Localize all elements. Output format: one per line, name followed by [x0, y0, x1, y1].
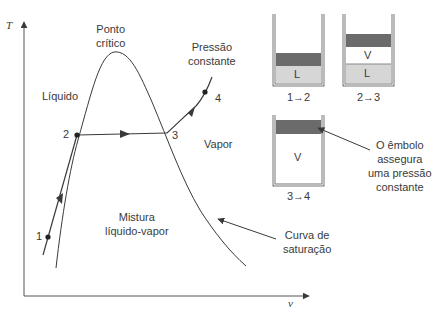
piston [276, 120, 321, 134]
point-3-label: 3 [172, 128, 178, 142]
axes [24, 22, 309, 296]
arrow-2-3-icon [120, 130, 130, 138]
process-3-4 [167, 77, 212, 133]
piston-pointer [318, 128, 370, 150]
constant-pressure-label: Pressão constante [188, 40, 236, 68]
y-axis-label: T [6, 18, 12, 32]
cylinder-1-2-caption: 1→2 [287, 91, 310, 103]
cylinder-2-3-caption: 2→3 [357, 91, 380, 103]
point-1 [45, 234, 50, 239]
liquid-region-label: Líquido [42, 89, 78, 103]
cylinder-1-2-liquid-label: L [294, 68, 300, 80]
piston [346, 34, 391, 47]
point-1-label: 1 [36, 229, 42, 243]
cylinder-2-3-liquid-label: L [364, 67, 370, 79]
cylinder-3-4-vapor-label: V [294, 151, 301, 163]
point-2 [74, 132, 79, 137]
piston [276, 53, 321, 66]
cylinder-2-3-vapor-label: V [364, 49, 371, 61]
critical-point-label: Ponto crítico [96, 22, 125, 50]
point-4-label: 4 [215, 91, 221, 105]
point-4 [202, 89, 207, 94]
piston-note-label: O êmbolo assegura uma pressão constante [368, 138, 432, 194]
vapor-region-label: Vapor [204, 137, 233, 151]
mixture-region-label: Mistura líquido-vapor [105, 210, 169, 238]
saturation-curve-label: Curva de saturação [283, 228, 331, 256]
point-2-label: 2 [63, 127, 69, 141]
x-axis-label: v [288, 296, 293, 310]
cylinder-3-4-caption: 3→4 [287, 190, 310, 202]
cylinder-3-4 [274, 115, 323, 185]
saturation-pointer [218, 219, 276, 239]
